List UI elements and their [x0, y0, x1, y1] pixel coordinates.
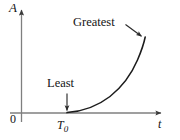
vertical-axis-label: A	[9, 1, 17, 14]
t-zero-subscript: 0	[64, 124, 69, 134]
growth-curve	[67, 37, 145, 113]
t-zero-base: T	[57, 118, 64, 132]
greatest-annotation-label: Greatest	[73, 16, 115, 29]
horizontal-axis-label: t	[158, 118, 161, 130]
least-annotation-label: Least	[47, 77, 74, 90]
t-zero-tick-label: T0	[57, 119, 68, 134]
growth-curve-figure: A 0 t T0 Least Greatest	[0, 0, 180, 140]
origin-label: 0	[10, 113, 16, 125]
greatest-pointer-arrow	[126, 25, 142, 37]
